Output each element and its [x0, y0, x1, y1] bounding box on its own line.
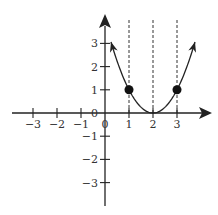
x-tick-label: 0 [102, 118, 109, 131]
y-tick-label: 2 [91, 61, 98, 74]
coordinate-plane: −3−2−101233210−1−2−3 [0, 0, 218, 215]
y-tick-label: 3 [91, 37, 98, 50]
y-tick-label: −3 [82, 177, 98, 190]
y-tick-label: 0 [91, 107, 98, 120]
x-tick-label: −1 [73, 118, 89, 131]
x-tick-label: 1 [126, 118, 133, 131]
axes [12, 14, 212, 206]
x-tick-label: −2 [49, 118, 65, 131]
y-tick-label: −2 [82, 153, 98, 166]
data-point [173, 85, 182, 94]
y-axis-arrow-icon [99, 14, 111, 28]
x-tick-label: 3 [174, 118, 181, 131]
y-tick-label: −1 [82, 130, 98, 143]
x-tick-label: −3 [25, 118, 41, 131]
x-tick-label: 2 [150, 118, 157, 131]
y-tick-label: 1 [91, 84, 98, 97]
data-point [125, 85, 134, 94]
dashed-vertical-lines [129, 20, 177, 113]
